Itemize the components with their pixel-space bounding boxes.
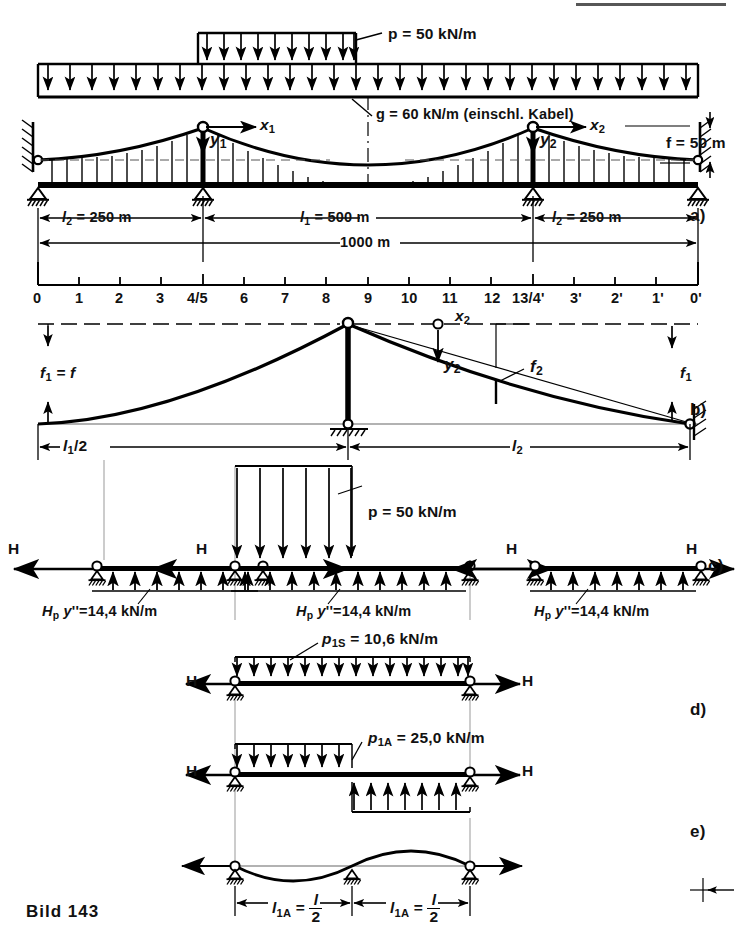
d-anti-load-label: p1A = 25,0 kN/m [368, 729, 485, 748]
b-pylon-top [343, 318, 353, 328]
scan-artifact [576, 3, 726, 6]
dim-total: 1000 m [340, 234, 390, 250]
station-tick-16: 0' [690, 290, 702, 306]
c-reaction-label-mid: Hp y''=14,4 kN/m [296, 603, 411, 621]
d-sym-load-label: p1S = 10,6 kN/m [322, 630, 438, 649]
b-dim-half-span: l1/2 [63, 437, 87, 456]
panel-label-d: d) [690, 700, 706, 720]
b-ordinate-y2-label: y2 [444, 355, 461, 376]
c-reaction-label-left: Hp y''=14,4 kN/m [42, 603, 157, 621]
station-tick-7: 8 [322, 290, 330, 306]
station-tick-11: 12 [484, 290, 501, 306]
dim-l2-left: l2 = 250 m [62, 209, 132, 227]
station-tick-2: 2 [115, 290, 123, 306]
panel-d-symmetric [186, 643, 520, 772]
c-load-p-label: p = 50 kN/m [368, 503, 457, 521]
b-sag-f2-label: f2 [530, 357, 543, 378]
sag-f-label: f = 50 m [666, 134, 726, 152]
axis-x2-label: x2 [590, 116, 605, 135]
load-band-g [38, 64, 698, 97]
station-tick-10: 11 [442, 290, 458, 306]
panel-label-e: e) [690, 822, 706, 842]
station-tick-9: 10 [401, 290, 418, 306]
dim-l1-main: l1 = 500 m [300, 209, 370, 227]
e-dim-right: l1A = l2 [390, 892, 440, 924]
station-tick-6: 7 [281, 290, 289, 306]
d-H-left: H [186, 672, 197, 690]
anchor-left [22, 120, 33, 172]
d-H-right: H [522, 672, 533, 690]
station-tick-3: 3 [156, 290, 164, 306]
b-axis-x2-label: x2 [455, 307, 470, 326]
b-x2-node [433, 319, 442, 328]
b-sag-f1-eq-label: f1 = f [40, 364, 75, 383]
e-dim-left: l1A = l2 [272, 892, 322, 924]
panel-label-c: c) [708, 556, 724, 576]
g-leader [352, 99, 372, 116]
station-tick-12: 13/4' [512, 290, 545, 306]
span-dimensions [38, 196, 698, 262]
c-segment-mid [152, 466, 552, 604]
d-H-left-anti: H [186, 762, 197, 780]
panel-label-a: a) [690, 206, 706, 226]
axis-x1-label: x1 [260, 116, 275, 135]
station-tick-1: 1 [75, 290, 83, 306]
dim-l2-right: l2 = 250 m [552, 209, 622, 227]
load-g-label: g = 60 kN/m (einschl. Kabel) [376, 106, 574, 122]
figure-caption: Bild 143 [26, 902, 99, 922]
c-H-right-outer: H [686, 540, 697, 558]
station-tick-0: 0 [33, 290, 41, 306]
station-tick-14: 2' [611, 290, 623, 306]
b-dim-l2: l2 [512, 437, 523, 456]
d-H-right-anti: H [522, 762, 533, 780]
c-H-left-outer: H [8, 540, 19, 558]
c-H-right-inner: H [506, 540, 517, 558]
deck-supports [27, 188, 709, 206]
panel-e [182, 851, 734, 916]
c-reaction-label-right: Hp y''=14,4 kN/m [534, 603, 649, 621]
ordinate-y1-label: y1 [210, 130, 227, 151]
anchor-pin-right [694, 156, 702, 164]
c-segment-right [452, 561, 734, 604]
station-tick-15: 1' [652, 290, 664, 306]
figure-bild-143: p = 50 kN/m g = 60 kN/m (einschl. Kabel)… [0, 0, 736, 942]
panel-c [14, 460, 734, 620]
c-H-left-inner: H [196, 540, 207, 558]
panel-label-b: b) [690, 400, 706, 420]
b-sag-f1-label: f1 [680, 364, 692, 383]
station-tick-4: 4/5 [187, 290, 208, 306]
b-base-hatch [330, 429, 368, 436]
station-tick-13: 3' [570, 290, 582, 306]
ordinate-y2-label: y2 [540, 130, 557, 151]
b-pylon-base [344, 420, 353, 429]
diagram-canvas [0, 0, 736, 942]
panel-b [38, 318, 706, 460]
load-band-p-top [198, 33, 382, 64]
load-p-label: p = 50 kN/m [388, 25, 477, 43]
station-scale [38, 262, 698, 285]
station-tick-8: 9 [364, 290, 372, 306]
station-tick-5: 6 [240, 290, 248, 306]
